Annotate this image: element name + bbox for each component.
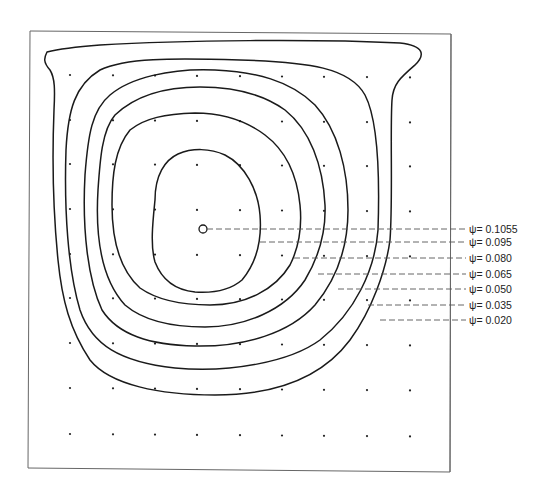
grid-dot xyxy=(239,434,241,436)
grid-dot xyxy=(196,254,198,256)
grid-dot xyxy=(69,297,71,299)
grid-dot xyxy=(69,433,71,435)
contour-label-psi-0.020: ψ= 0.020 xyxy=(469,314,512,326)
grid-dot xyxy=(112,163,114,165)
grid-dot xyxy=(366,344,368,346)
grid-dot xyxy=(409,344,411,346)
grid-dot xyxy=(281,298,283,300)
grid-dot xyxy=(112,342,114,344)
grid-dot xyxy=(409,210,411,212)
grid-dot xyxy=(281,164,283,166)
grid-dot xyxy=(239,388,241,390)
grid-dot xyxy=(69,74,71,76)
grid-dot xyxy=(366,76,368,78)
grid-dot xyxy=(112,297,114,299)
grid-dot xyxy=(323,389,325,391)
grid-dots xyxy=(69,74,411,438)
grid-dot xyxy=(281,388,283,390)
grid-dot xyxy=(409,121,411,123)
streamline-psi-0.065 xyxy=(97,87,325,327)
grid-dot xyxy=(69,342,71,344)
grid-dot xyxy=(69,387,71,389)
grid-dot xyxy=(281,254,283,256)
grid-dot xyxy=(409,165,411,167)
grid-dot xyxy=(196,209,198,211)
grid-dot xyxy=(366,121,368,123)
grid-dot xyxy=(154,343,156,345)
grid-dot xyxy=(366,210,368,212)
grid-dot xyxy=(196,434,198,436)
grid-dot xyxy=(112,433,114,435)
contour-leaders: ψ= 0.1055ψ= 0.095ψ= 0.080ψ= 0.065ψ= 0.05… xyxy=(207,223,518,326)
grid-dot xyxy=(112,253,114,255)
streamlines xyxy=(45,41,422,395)
grid-dot xyxy=(366,389,368,391)
grid-dot xyxy=(112,74,114,76)
grid-dot xyxy=(409,389,411,391)
grid-dot xyxy=(281,120,283,122)
grid-dot xyxy=(323,299,325,301)
streamline-psi-0.095 xyxy=(152,150,260,293)
vortex-center-marker xyxy=(199,225,207,233)
grid-dot xyxy=(409,255,411,257)
grid-dot xyxy=(366,435,368,437)
contour-label-psi-0.095: ψ= 0.095 xyxy=(469,236,512,248)
streamline-psi-0.080 xyxy=(112,113,301,305)
contour-label-psi-0.035: ψ= 0.035 xyxy=(469,299,512,311)
grid-dot xyxy=(154,434,156,436)
grid-dot xyxy=(323,165,325,167)
grid-dot xyxy=(281,209,283,211)
grid-dot xyxy=(154,120,156,122)
grid-dot xyxy=(409,299,411,301)
grid-dot xyxy=(112,387,114,389)
grid-dot xyxy=(409,76,411,78)
grid-dot xyxy=(196,75,198,77)
grid-dot xyxy=(154,298,156,300)
grid-dot xyxy=(239,254,241,256)
grid-dot xyxy=(196,164,198,166)
contour-label-psi-0.050: ψ= 0.050 xyxy=(469,283,512,295)
grid-dot xyxy=(366,255,368,257)
grid-dot xyxy=(323,255,325,257)
streamline-diagram: ψ= 0.1055ψ= 0.095ψ= 0.080ψ= 0.065ψ= 0.05… xyxy=(0,0,536,496)
grid-dot xyxy=(154,164,156,166)
right-wall xyxy=(450,34,451,472)
contour-label-psi-0.080: ψ= 0.080 xyxy=(469,252,512,264)
grid-dot xyxy=(366,165,368,167)
grid-dot xyxy=(239,298,241,300)
grid-dot xyxy=(239,209,241,211)
grid-dot xyxy=(409,435,411,437)
grid-dot xyxy=(196,298,198,300)
grid-dot xyxy=(323,121,325,123)
grid-dot xyxy=(69,163,71,165)
grid-dot xyxy=(323,76,325,78)
grid-dot xyxy=(69,208,71,210)
grid-dot xyxy=(196,388,198,390)
grid-dot xyxy=(196,120,198,122)
grid-dot xyxy=(281,343,283,345)
grid-dot xyxy=(239,75,241,77)
contour-label-psi-0.065: ψ= 0.065 xyxy=(469,268,512,280)
grid-dot xyxy=(281,434,283,436)
grid-dot xyxy=(366,299,368,301)
grid-dot xyxy=(323,435,325,437)
grid-dot xyxy=(196,343,198,345)
contour-label-psi-0.1055: ψ= 0.1055 xyxy=(469,223,518,235)
grid-dot xyxy=(323,344,325,346)
grid-dot xyxy=(281,75,283,77)
